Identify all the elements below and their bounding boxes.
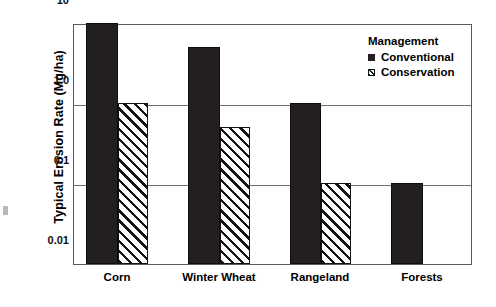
scan-artifact [3,206,8,215]
bar-corn-conventional [86,23,118,264]
x-tick-label-winter-wheat: Winter Wheat [182,271,255,283]
hatched-square-icon [368,69,375,76]
legend: Management Conventional Conservation [368,35,455,78]
erosion-rate-bar-chart: Typical Erosion Rate (Mg/ha) 10 1.0 0.1 … [0,0,496,307]
y-tick-label-0-1: 0.1 [25,154,69,166]
bar-winter-wheat-conservation [220,127,250,264]
y-tick-label-1: 1.0 [25,74,69,86]
legend-label-conventional: Conventional [381,51,454,63]
legend-title: Management [368,35,455,47]
y-tick-label-0-01: 0.01 [25,234,69,246]
legend-label-conservation: Conservation [381,66,455,78]
bar-rangeland-conservation [321,183,351,264]
plot-area: Management Conventional Conservation [73,24,472,265]
legend-item-conservation: Conservation [368,66,455,78]
bar-winter-wheat-conventional [188,47,220,264]
y-tick-label-10: 10 [25,0,69,6]
x-tick-label-corn: Corn [104,271,131,283]
solid-square-icon [368,54,375,61]
bar-rangeland-conventional [290,103,321,264]
bar-forests-conventional [391,183,423,264]
bar-corn-conservation [118,103,148,264]
x-tick-label-rangeland: Rangeland [291,271,350,283]
legend-item-conventional: Conventional [368,51,455,63]
y-axis-tick-labels: 10 1.0 0.1 0.01 [24,0,69,307]
x-tick-label-forests: Forests [401,271,443,283]
